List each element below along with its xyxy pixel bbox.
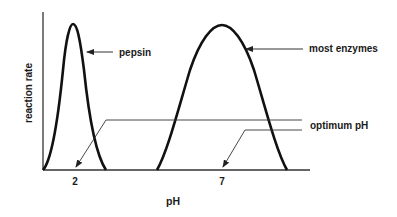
- pepsin-label: pepsin: [119, 47, 151, 58]
- ph-enzyme-chart: reaction rate pH 2 7 pepsin most enzymes…: [0, 0, 397, 217]
- pepsin-curve: [43, 24, 106, 170]
- optimum-ph-arrow-7: [223, 130, 302, 167]
- x-tick-2: 2: [72, 176, 78, 187]
- x-tick-7: 7: [219, 176, 225, 187]
- x-axis-label: pH: [166, 195, 180, 207]
- y-axis-label: reaction rate: [23, 63, 34, 123]
- most-enzymes-curve: [157, 25, 287, 170]
- most-enzymes-label: most enzymes: [309, 43, 378, 54]
- optimum-ph-arrow-2: [76, 120, 302, 167]
- optimum-ph-label: optimum pH: [310, 120, 368, 131]
